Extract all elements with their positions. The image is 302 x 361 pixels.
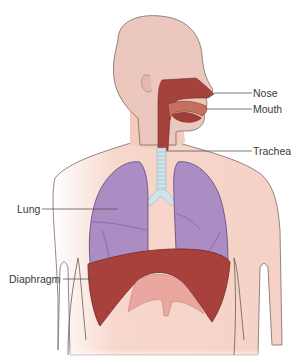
anatomy-illustration — [0, 0, 302, 361]
label-diaphragm: Diaphragm — [9, 273, 60, 285]
label-trachea: Trachea — [253, 145, 291, 157]
label-mouth: Mouth — [253, 103, 282, 115]
label-nose: Nose — [253, 87, 278, 99]
respiratory-diagram: Nose Mouth Trachea Lung Diaphragm — [0, 0, 302, 361]
airway — [158, 78, 214, 152]
label-lung: Lung — [17, 203, 40, 215]
